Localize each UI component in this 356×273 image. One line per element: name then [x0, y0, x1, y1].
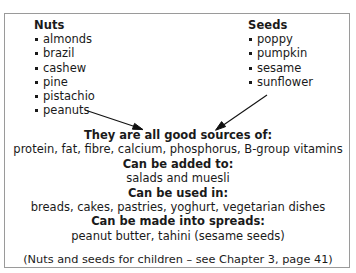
list-item: cashew: [34, 61, 95, 75]
list-item: pumpkin: [248, 46, 313, 60]
summary-heading-spreads: Can be made into spreads:: [5, 214, 351, 228]
list-item: sunflower: [248, 75, 313, 89]
figure-panel: Nuts almonds brazil cashew pine pistachi…: [4, 13, 350, 268]
summary-content-added-to: salads and muesli: [5, 171, 351, 185]
summary-heading-added-to: Can be added to:: [5, 157, 351, 171]
summary-heading-sources: They are all good sources of:: [5, 128, 351, 142]
list-item: brazil: [34, 46, 95, 60]
nuts-heading: Nuts: [34, 18, 95, 32]
nuts-and-seeds-figure: Nuts almonds brazil cashew pine pistachi…: [0, 0, 356, 273]
seeds-to-summary-arrow: [216, 95, 268, 130]
list-item: peanuts: [34, 103, 95, 117]
list-item: sesame: [248, 61, 313, 75]
summary-spacer: [5, 243, 351, 253]
seeds-column: Seeds poppy pumpkin sesame sunflower: [248, 18, 313, 89]
summary-content-sources: protein, fat, fibre, calcium, phosphorus…: [5, 142, 351, 156]
list-item: pistachio: [34, 89, 95, 103]
nuts-column: Nuts almonds brazil cashew pine pistachi…: [34, 18, 95, 118]
seeds-list: poppy pumpkin sesame sunflower: [248, 32, 313, 89]
credit-note: (Nuts and seeds for children – see Chapt…: [5, 253, 351, 267]
list-item: pine: [34, 75, 95, 89]
nuts-list: almonds brazil cashew pine pistachio pea…: [34, 32, 95, 118]
seeds-heading: Seeds: [248, 18, 313, 32]
summary-block: They are all good sources of: protein, f…: [5, 128, 351, 268]
list-item: poppy: [248, 32, 313, 46]
summary-content-spreads: peanut butter, tahini (sesame seeds): [5, 229, 351, 243]
list-item: almonds: [34, 32, 95, 46]
summary-content-used-in: breads, cakes, pastries, yoghurt, vegeta…: [5, 200, 351, 214]
summary-heading-used-in: Can be used in:: [5, 186, 351, 200]
